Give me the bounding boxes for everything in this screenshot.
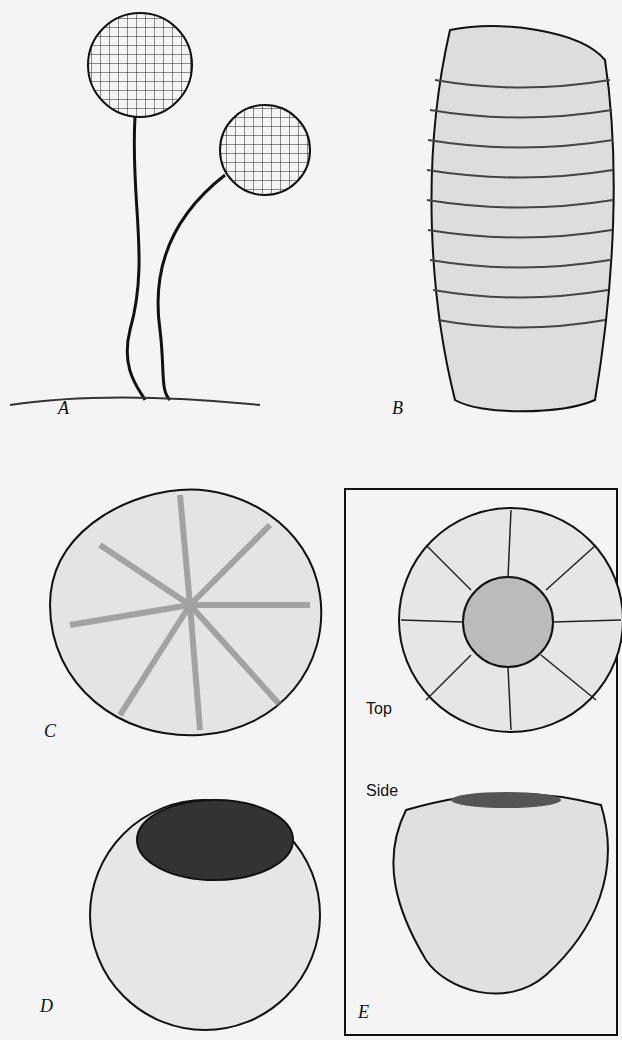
lobed-body-illustration	[40, 485, 340, 745]
panel-label-a: A	[58, 398, 69, 419]
view-label-side: Side	[366, 782, 398, 800]
view-label-top: Top	[366, 700, 392, 718]
panel-c: C	[40, 485, 340, 745]
top-side-views-illustration	[346, 490, 620, 1038]
cup-body-illustration	[30, 790, 340, 1030]
panel-label-b: B	[392, 398, 403, 419]
panel-d: D	[30, 790, 340, 1030]
barrel-body-illustration	[380, 0, 622, 420]
stalked-sporangia-illustration	[10, 0, 310, 420]
panel-label-e: E	[358, 1002, 369, 1023]
panel-label-d: D	[40, 996, 53, 1017]
panel-a: A	[10, 0, 310, 420]
panel-b: B	[380, 0, 622, 420]
panel-e-box: Top Side E	[344, 488, 618, 1036]
panel-label-c: C	[44, 721, 56, 742]
